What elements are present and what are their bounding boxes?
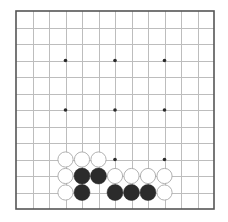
white-stone <box>74 152 89 167</box>
white-stone <box>91 152 106 167</box>
star-point-icon <box>64 59 68 63</box>
white-stone <box>157 185 172 200</box>
star-point-icon <box>163 59 167 63</box>
black-stone <box>74 185 90 201</box>
star-point-icon <box>113 59 117 63</box>
star-point-icon <box>113 158 117 162</box>
white-stone <box>107 168 122 183</box>
star-point-icon <box>163 158 167 162</box>
black-stone <box>140 185 156 201</box>
go-board-canvas[interactable] <box>0 0 228 222</box>
star-point-icon <box>163 108 167 112</box>
white-stone <box>140 168 155 183</box>
black-stone <box>107 185 123 201</box>
star-point-icon <box>113 108 117 112</box>
white-stone <box>58 185 73 200</box>
black-stone <box>124 185 140 201</box>
black-stone <box>91 168 107 184</box>
white-stone <box>58 152 73 167</box>
white-stone <box>58 168 73 183</box>
white-stone <box>124 168 139 183</box>
white-stone <box>157 168 172 183</box>
black-stone <box>74 168 90 184</box>
go-board[interactable] <box>0 0 228 222</box>
star-point-icon <box>64 108 68 112</box>
